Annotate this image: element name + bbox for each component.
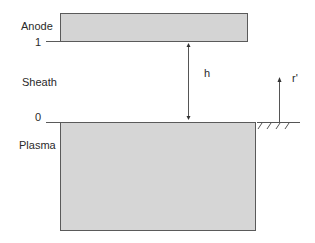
coordinate-label: r' [292,72,298,84]
gap-label: h [204,67,210,79]
plasma-label: Plasma [19,139,56,151]
sheath-diagram [0,0,315,243]
gap-arrow-icon [187,43,191,120]
anode-label: Anode [21,20,53,32]
plasma-region [61,123,256,231]
sheath-label: Sheath [22,76,57,88]
level-1-label: 1 [35,36,41,48]
ground-hatch-icon [257,123,300,130]
anode-electrode [61,14,248,42]
level-0-label: 0 [35,111,41,123]
r-prime-arrow-icon [278,77,282,122]
